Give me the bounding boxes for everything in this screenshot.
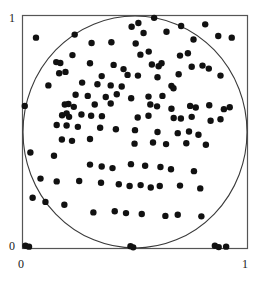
y-axis-max-tick-label: 1	[9, 12, 15, 24]
scatter-point	[33, 34, 39, 40]
scatter-point	[114, 91, 120, 97]
scatter-point	[112, 208, 118, 214]
scatter-point	[98, 180, 104, 186]
scatter-point	[137, 182, 143, 188]
scatter-point	[26, 243, 32, 249]
scatter-point	[45, 82, 51, 88]
scatter-point	[159, 93, 165, 99]
scatter-point	[198, 213, 204, 219]
scatter-point	[183, 140, 189, 146]
scatter-point	[69, 138, 75, 144]
scatter-point	[42, 199, 48, 205]
scatter-point	[119, 83, 125, 89]
scatter-point	[99, 73, 105, 79]
scatter-point	[87, 136, 93, 142]
scatter-point	[154, 129, 160, 135]
scatter-point	[216, 244, 222, 250]
scatter-point	[87, 60, 93, 66]
scatter-point	[207, 118, 213, 124]
scatter-point	[158, 60, 164, 66]
scatter-point	[175, 130, 181, 136]
scatter-point	[131, 140, 137, 146]
scatter-point	[128, 95, 134, 101]
scatter-point	[147, 101, 153, 107]
scatter-point	[103, 94, 109, 100]
scatter-point	[132, 40, 138, 46]
scatter-point	[128, 23, 134, 29]
scatter-point	[65, 101, 71, 107]
scatter-point	[69, 52, 75, 58]
scatter-point	[142, 163, 148, 169]
scatter-point	[150, 139, 156, 145]
scatter-point	[217, 116, 223, 122]
scatter-point	[72, 92, 78, 98]
scatter-point	[191, 168, 197, 174]
scatter-point	[206, 65, 212, 71]
scatter-point	[22, 103, 28, 109]
scatter-point	[99, 113, 105, 119]
scatter-point	[148, 184, 154, 190]
scatter-point	[139, 211, 145, 217]
scatter-points-group	[22, 15, 235, 251]
plot-canvas	[0, 0, 262, 282]
scatter-point	[163, 141, 169, 147]
scatter-point	[126, 183, 132, 189]
scatter-point	[154, 103, 160, 109]
scatter-point	[199, 62, 205, 68]
scatter-point	[76, 178, 82, 184]
scatter-point	[90, 209, 96, 215]
scatter-point	[51, 153, 57, 159]
scatter-point	[175, 71, 181, 77]
scatter-point	[157, 183, 163, 189]
scatter-point	[178, 115, 184, 121]
scatter-point	[163, 29, 169, 35]
scatter-point	[92, 101, 98, 107]
scatter-point	[85, 93, 91, 99]
scatter-point	[168, 166, 174, 172]
scatter-point	[108, 82, 114, 88]
scatter-point	[63, 122, 69, 128]
scatter-point	[108, 39, 114, 45]
scatter-point	[197, 185, 203, 191]
scatter-point	[202, 21, 208, 27]
scatter-point	[187, 103, 193, 109]
scatter-point	[54, 122, 60, 128]
scatter-point	[130, 244, 136, 250]
scatter-point	[116, 181, 122, 187]
scatter-point	[135, 20, 141, 26]
scatter-point	[190, 36, 196, 42]
scatter-point	[193, 104, 199, 110]
scatter-point	[227, 104, 233, 110]
scatter-point	[72, 31, 78, 37]
scatter-point	[57, 60, 63, 66]
scatter-point	[78, 111, 84, 117]
scatter-point	[171, 115, 177, 121]
scatter-point	[229, 34, 235, 40]
scatter-point	[99, 163, 105, 169]
scatter-point	[124, 72, 130, 78]
scatter-point	[135, 114, 141, 120]
scatter-point	[175, 212, 181, 218]
scatter-point	[37, 175, 43, 181]
scatter-point	[157, 164, 163, 170]
scatter-point	[29, 195, 35, 201]
scatter-point	[113, 126, 119, 132]
scatter-point	[59, 136, 65, 142]
scatter-plot-figure: 1 0 0 1	[0, 0, 262, 282]
scatter-point	[87, 161, 93, 167]
scatter-point	[189, 64, 195, 70]
scatter-point	[178, 23, 184, 29]
scatter-point	[61, 202, 67, 208]
scatter-point	[154, 74, 160, 80]
scatter-point	[75, 124, 81, 130]
scatter-point	[185, 50, 191, 56]
y-axis-min-tick-label: 0	[9, 240, 15, 252]
scatter-point	[120, 66, 126, 72]
scatter-point	[123, 210, 129, 216]
scatter-point	[109, 165, 115, 171]
scatter-point	[177, 182, 183, 188]
scatter-point	[71, 104, 77, 110]
scatter-point	[186, 128, 192, 134]
scatter-point	[145, 112, 151, 118]
scatter-point	[88, 112, 94, 118]
